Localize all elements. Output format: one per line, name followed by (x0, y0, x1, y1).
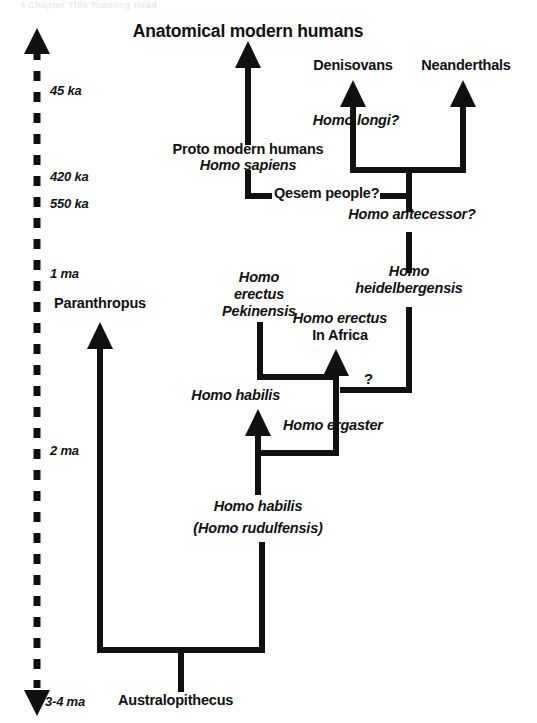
node-qesem-people: Qesem people? (274, 186, 379, 202)
node-homo-ergaster: Homo ergaster (283, 418, 383, 434)
phylogeny-lines (0, 0, 537, 723)
edge-antecessor-to-neanderthals (450, 80, 476, 170)
edge-sapiens-to-modern-humans (235, 41, 261, 145)
node-homo-erectus-pekinensis-line2: erectus (234, 287, 284, 303)
axis-tick-550ka: 550 ka (50, 197, 89, 211)
node-uncertain-link-question: ? (364, 371, 373, 387)
node-homo-erectus-africa-line1: Homo erectus (293, 311, 387, 327)
node-homo-habilis-upper: Homo habilis (191, 388, 280, 404)
node-homo-heidelbergensis-line2: heidelbergensis (355, 281, 462, 297)
node-homo-erectus-pekinensis-line3: Pekinensis (222, 304, 296, 320)
node-homo-antecessor: Homo antecessor? (348, 207, 475, 223)
axis-tick-45ka: 45 ka (50, 84, 82, 98)
node-homo-longi: Homo longi? (313, 113, 399, 129)
axis-tick-2ma: 2 ma (50, 444, 79, 458)
node-homo-heidelbergensis-line1: Homo (389, 264, 429, 280)
axis-tick-3-4ma: 3-4 ma (45, 695, 85, 709)
clade-bar-australopithecus (97, 647, 265, 692)
edge-australopithecus-to-paranthropus (87, 322, 113, 650)
axis-tick-1ma: 1 ma (50, 267, 79, 281)
node-homo-erectus-africa-line2: In Africa (312, 328, 368, 344)
node-neanderthals: Neanderthals (421, 58, 510, 74)
diagram-canvas: 4 Chapter Title Running Head (0, 0, 537, 723)
node-anatomical-modern-humans: Anatomical modern humans (133, 22, 364, 41)
time-axis-line (24, 28, 50, 716)
axis-tick-420ka: 420 ka (50, 170, 89, 184)
node-homo-habilis-lower-line1: Homo habilis (214, 499, 303, 515)
node-homo-sapiens: Homo sapiens (200, 158, 297, 174)
node-australopithecus: Australopithecus (118, 693, 233, 709)
node-paranthropus: Paranthropus (54, 296, 146, 312)
edge-qesem-to-sapiens (248, 170, 272, 196)
node-denisovans: Denisovans (313, 58, 392, 74)
node-homo-erectus-pekinensis-line1: Homo (239, 270, 279, 286)
clade-bar-habilis-ergaster (255, 450, 339, 495)
node-proto-modern-humans: Proto modern humans (173, 142, 324, 158)
node-homo-habilis-lower-line2: (Homo rudulfensis) (193, 521, 322, 537)
edge-rudulfensis-to-habilis (245, 409, 271, 453)
